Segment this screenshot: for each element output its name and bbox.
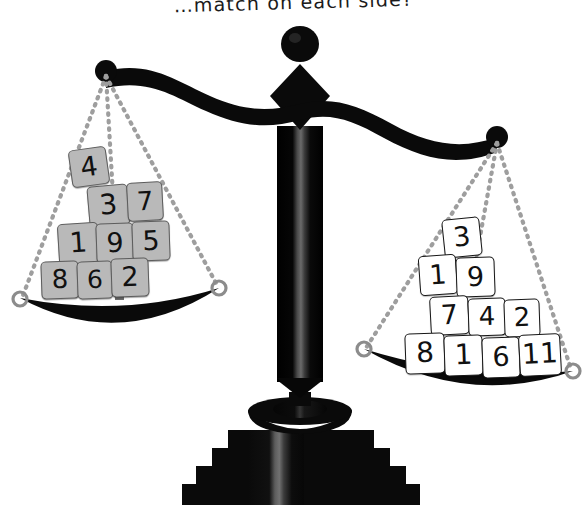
number-tile-label: 2: [121, 263, 139, 291]
number-tile[interactable]: 7: [429, 295, 470, 336]
number-tile[interactable]: 5: [131, 220, 170, 261]
number-tile-label: 5: [142, 226, 160, 254]
number-tile[interactable]: 7: [126, 181, 164, 222]
number-tile-label: 1: [69, 228, 89, 257]
number-tile[interactable]: 9: [455, 256, 495, 297]
number-tile-label: 7: [136, 187, 154, 214]
number-tile[interactable]: 6: [481, 336, 520, 378]
number-tile[interactable]: 4: [467, 297, 506, 336]
number-tile-label: 8: [416, 338, 435, 367]
number-tile-label: 6: [87, 266, 104, 292]
scale-column: [277, 126, 323, 398]
number-tile-label: 8: [51, 266, 68, 293]
scale-base-steps: [182, 430, 420, 505]
puzzle-canvas: …match on each side?: [0, 0, 587, 524]
number-tile-label: 11: [521, 339, 558, 369]
scale-pedestal: [248, 392, 352, 434]
number-tile[interactable]: 1: [57, 222, 100, 265]
number-tile[interactable]: 1: [443, 334, 483, 376]
number-tile[interactable]: 8: [404, 332, 445, 374]
number-tile-label: 2: [513, 304, 530, 331]
number-tile[interactable]: 1: [418, 254, 459, 297]
number-tile-label: 1: [428, 260, 447, 288]
number-tile-label: 1: [454, 340, 473, 369]
number-tile[interactable]: 4: [68, 146, 111, 189]
number-tile-label: 3: [452, 222, 472, 251]
number-tile[interactable]: 6: [76, 260, 113, 299]
number-tile-label: 6: [492, 343, 510, 371]
number-tile[interactable]: 3: [441, 216, 483, 259]
number-tile-label: 9: [466, 262, 484, 290]
number-tile[interactable]: 2: [503, 298, 540, 337]
number-tile-label: 7: [440, 301, 459, 329]
number-tile[interactable]: 8: [40, 260, 79, 299]
number-tile[interactable]: 11: [518, 333, 562, 377]
number-tile-label: 3: [98, 190, 118, 219]
number-tile-label: 4: [78, 151, 99, 180]
number-tile-label: 4: [478, 303, 495, 330]
number-tile[interactable]: 2: [110, 257, 149, 297]
number-tile-label: 9: [106, 228, 124, 256]
